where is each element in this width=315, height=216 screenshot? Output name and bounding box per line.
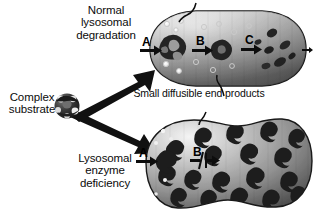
step-label-b-top: B (196, 35, 205, 47)
label-small-diffusible-end-products: Small diffusible end products (125, 88, 273, 99)
step-label-a-bottom: A (139, 147, 148, 159)
deficient-lysosome (136, 112, 312, 212)
step-label-a-top: A (142, 36, 151, 48)
step-label-b-bottom: B (193, 146, 202, 158)
step-label-c-top: C (245, 34, 254, 46)
normal-lysosome (140, 3, 313, 96)
label-normal-lysosomal-degradation: Normal lysosomal degradation (62, 4, 150, 41)
figure-canvas: Normal lysosomal degradation Complex sub… (0, 0, 315, 216)
label-complex-substrate: Complex substrate (2, 91, 62, 116)
